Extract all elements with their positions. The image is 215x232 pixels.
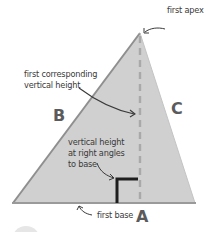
apex-label: first apex	[167, 5, 204, 15]
decorative-circle	[12, 226, 40, 232]
right-angle-label-line1: vertical height	[68, 137, 125, 147]
apex-arrow	[144, 28, 165, 33]
corresponding-height-label-line1: first corresponding	[24, 69, 97, 79]
triangle-height-diagram: first apex first corresponding vertical …	[0, 0, 215, 232]
side-label-b: B	[53, 106, 65, 125]
corresponding-height-label-line2: vertical height	[24, 80, 81, 90]
right-angle-label-line2: at right angles	[68, 148, 125, 158]
right-angle-label-line3: to base	[68, 159, 97, 169]
side-label-a: A	[136, 207, 149, 226]
base-label: first base	[97, 210, 133, 220]
side-label-c: C	[171, 99, 183, 118]
base-arrow	[77, 206, 92, 215]
